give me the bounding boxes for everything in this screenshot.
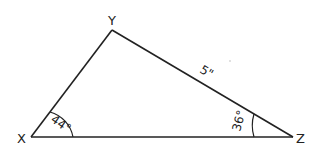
side-label-yz: 5" — [198, 62, 216, 81]
vertex-label-y: Y — [107, 13, 116, 28]
side-xy — [31, 30, 112, 137]
triangle-diagram: Y X Z 44° 36° 5" — [0, 0, 316, 160]
artifact-dot — [229, 60, 231, 62]
vertex-label-x: X — [17, 131, 26, 146]
side-yz — [112, 30, 293, 137]
angle-label-x: 44° — [48, 112, 73, 136]
angle-arc-z — [252, 114, 254, 137]
angle-label-z: 36° — [229, 109, 248, 133]
vertex-label-z: Z — [296, 131, 305, 146]
